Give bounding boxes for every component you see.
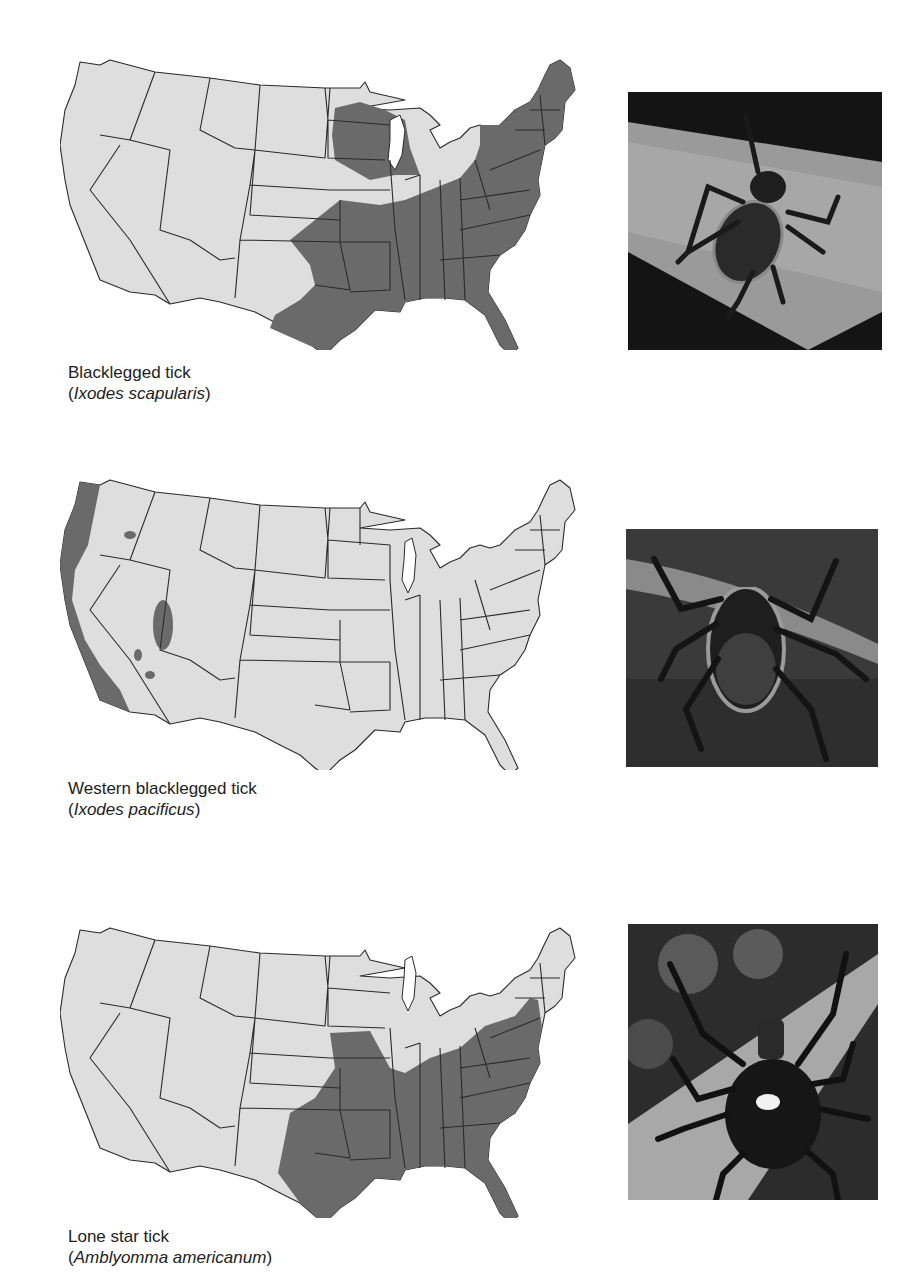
- us-map-icon: [60, 898, 580, 1218]
- caption-lone-star-tick: Lone star tick (Amblyomma americanum): [68, 1226, 272, 1268]
- common-name: Lone star tick: [68, 1226, 272, 1247]
- photo-lone-star-tick: [628, 924, 878, 1200]
- scientific-name: (Amblyomma americanum): [68, 1247, 272, 1268]
- scientific-name-text: Amblyomma americanum: [74, 1248, 267, 1267]
- tick-photo-icon: [628, 924, 878, 1200]
- range-map-lone-star-tick: [60, 898, 580, 1218]
- panel-lone-star-tick: Lone star tick (Amblyomma americanum): [0, 0, 924, 1287]
